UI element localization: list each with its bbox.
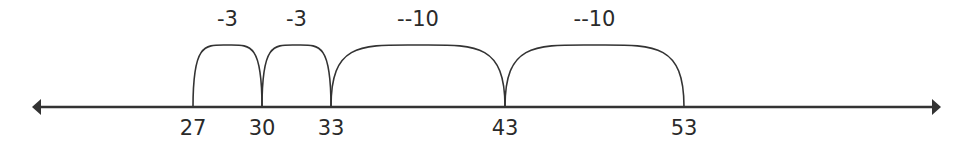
tick-label: 53 [671, 118, 698, 139]
number-line-diagram: -3 -3 --10 --10 27 30 33 43 53 [0, 0, 967, 152]
tick-label: 33 [318, 118, 345, 139]
jump-arc [505, 45, 684, 107]
jump-arc [331, 45, 505, 107]
jump-label: --10 [397, 9, 439, 30]
jump-label: -3 [286, 9, 307, 30]
number-line-canvas [0, 0, 967, 152]
jump-arc [262, 45, 331, 107]
left-arrow-icon [32, 99, 41, 115]
jump-label: -3 [217, 9, 238, 30]
right-arrow-icon [932, 99, 941, 115]
jump-arcs [193, 45, 684, 107]
tick-label: 27 [180, 118, 207, 139]
tick-label: 43 [492, 118, 519, 139]
jump-arc [193, 45, 262, 107]
jump-label: --10 [574, 9, 616, 30]
tick-label: 30 [249, 118, 276, 139]
